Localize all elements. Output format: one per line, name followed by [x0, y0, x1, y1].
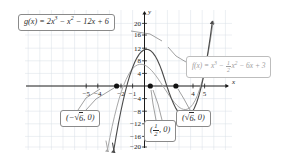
- point-label-neg-sqrt6: (−√6, 0): [60, 110, 100, 127]
- leader-root-mid-b: [153, 90, 162, 120]
- x-tick-label: −4: [94, 90, 102, 98]
- point-label-pos-sqrt6: (√6, 0): [176, 110, 211, 127]
- x-tick-label: 5: [203, 90, 207, 98]
- y-tick-label: −20: [130, 143, 141, 151]
- y-tick-label: −16: [130, 133, 141, 141]
- leader-f-label: [168, 47, 186, 62]
- point-neg-sqrt6: [114, 83, 119, 88]
- y-tick-label: 4: [138, 70, 142, 78]
- point-label-one-half: (12, 0): [144, 120, 176, 142]
- point-label-one-half-text: (12, 0): [150, 125, 170, 134]
- function-label-g: g(x) = 2x3 − x2 − 12x + 6: [18, 14, 115, 31]
- x-axis-label: x: [231, 78, 236, 86]
- function-label-g-text: g(x) = 2x3 − x2 − 12x + 6: [24, 17, 109, 26]
- axis-lines: [26, 12, 228, 148]
- function-label-f-text: f(x) = x3 − 12x2 − 6x + 3: [192, 61, 265, 70]
- point-label-pos-sqrt6-text: (√6, 0): [182, 112, 205, 123]
- point-pos-sqrt6: [173, 83, 178, 88]
- y-tick-label: 12: [134, 45, 142, 53]
- y-tick-label: −4: [134, 95, 142, 103]
- x-tick-label: −5: [82, 90, 90, 98]
- y-tick-label: −8: [134, 108, 142, 116]
- leader-root-mid-a: [151, 90, 156, 120]
- leader-root-right-a: [178, 89, 190, 110]
- y-tick-label: 20: [134, 20, 142, 28]
- curve-left-branches: [106, 141, 114, 150]
- y-tick-label: −12: [130, 120, 141, 128]
- curve-g-left-tail: [113, 143, 114, 150]
- x-tick-label: 4: [191, 90, 195, 98]
- graph-figure: x y −5 −4 −2 −1 4 5 20 16 12 8 4 −4 −8 −…: [0, 0, 295, 156]
- y-axis-label: y: [147, 8, 152, 16]
- function-label-f: f(x) = x3 − 12x2 − 6x + 3: [186, 56, 271, 78]
- point-label-neg-sqrt6-text: (−√6, 0): [66, 112, 94, 123]
- point-one-half: [148, 83, 153, 88]
- curve-f-left-tail: [106, 141, 108, 149]
